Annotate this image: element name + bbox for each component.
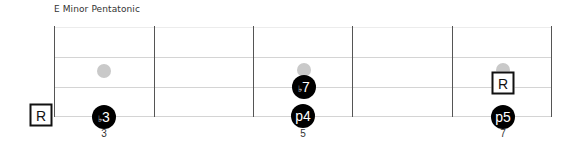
note-label: p5 xyxy=(495,110,511,124)
fret-line-1 xyxy=(154,26,155,117)
fret-number-5: 5 xyxy=(300,128,306,139)
note-p4: p4 xyxy=(291,104,315,128)
note-label: 3 xyxy=(102,110,110,124)
fret-line-4 xyxy=(452,26,453,117)
note-flat-7: ♭7 xyxy=(292,75,316,99)
fret-number-3: 3 xyxy=(101,128,107,139)
root-marker-fret-7: R xyxy=(492,72,515,95)
fret-line-5 xyxy=(551,26,552,117)
ghost-dot-fret-3 xyxy=(97,64,111,78)
fret-line-3 xyxy=(352,26,353,117)
note-flat-3: ♭3 xyxy=(92,105,116,129)
string-line-1 xyxy=(54,27,552,28)
note-p5: p5 xyxy=(491,105,515,129)
fretboard: R R ♭3 ♭7 p4 p5 3 5 7 xyxy=(0,0,580,146)
root-marker-open: R xyxy=(30,104,53,127)
fret-number-7: 7 xyxy=(500,128,506,139)
fret-line-nut xyxy=(54,26,55,117)
fret-line-2 xyxy=(253,26,254,117)
string-line-2 xyxy=(54,57,552,58)
root-label: R xyxy=(498,75,508,91)
note-label: p4 xyxy=(295,109,311,123)
note-label: 7 xyxy=(302,80,310,94)
root-label: R xyxy=(36,107,46,123)
